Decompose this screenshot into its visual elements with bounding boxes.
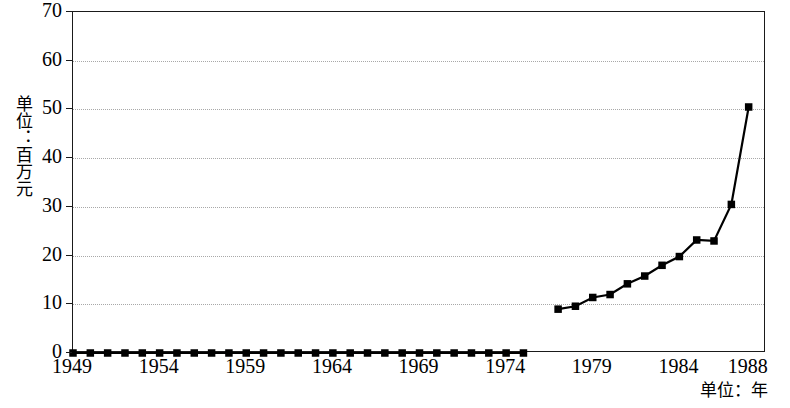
y-tick-label-60: 60 bbox=[26, 49, 62, 69]
data-point-marker bbox=[693, 236, 701, 244]
data-point-marker bbox=[381, 349, 389, 357]
x-tick-label-1954: 1954 bbox=[129, 355, 189, 377]
data-point-marker bbox=[606, 291, 614, 299]
x-axis-title: 单位：年 bbox=[700, 381, 768, 400]
x-tick-label-1974: 1974 bbox=[475, 355, 535, 377]
data-point-marker bbox=[294, 349, 302, 357]
x-tick-label-1949: 1949 bbox=[42, 355, 102, 377]
data-point-marker bbox=[208, 349, 216, 357]
series-line-rising-segment bbox=[558, 107, 749, 309]
data-point-marker bbox=[468, 349, 476, 357]
y-tick-mark-20 bbox=[66, 255, 72, 256]
x-tick-label-1969: 1969 bbox=[389, 355, 449, 377]
data-series-line bbox=[73, 12, 766, 353]
data-point-marker bbox=[104, 349, 112, 357]
data-point-marker bbox=[658, 262, 666, 270]
plot-area bbox=[72, 11, 765, 352]
data-point-marker bbox=[572, 302, 580, 310]
data-point-marker bbox=[364, 349, 372, 357]
x-tick-label-1959: 1959 bbox=[215, 355, 275, 377]
y-tick-label-40: 40 bbox=[26, 146, 62, 166]
y-tick-label-10: 10 bbox=[26, 292, 62, 312]
data-point-marker bbox=[589, 294, 597, 302]
data-point-marker bbox=[554, 305, 562, 313]
y-tick-label-20: 20 bbox=[26, 244, 62, 264]
y-tick-mark-0 bbox=[66, 352, 72, 353]
x-tick-label-1964: 1964 bbox=[302, 355, 362, 377]
chart-figure: 单位：百万元 010203040506070 19491954195919641… bbox=[0, 0, 790, 408]
y-tick-mark-10 bbox=[66, 303, 72, 304]
data-point-marker bbox=[641, 272, 649, 280]
data-point-marker bbox=[191, 349, 199, 357]
y-tick-label-30: 30 bbox=[26, 195, 62, 215]
x-tick-label-1988: 1988 bbox=[718, 355, 778, 377]
y-tick-mark-40 bbox=[66, 157, 72, 158]
data-point-marker bbox=[710, 237, 718, 245]
data-point-marker bbox=[121, 349, 129, 357]
data-point-marker bbox=[450, 349, 458, 357]
data-point-marker bbox=[624, 280, 632, 288]
y-tick-label-50: 50 bbox=[26, 97, 62, 117]
x-tick-label-1979: 1979 bbox=[562, 355, 622, 377]
data-point-marker bbox=[676, 253, 684, 260]
y-tick-mark-50 bbox=[66, 108, 72, 109]
x-tick-label-1984: 1984 bbox=[648, 355, 708, 377]
data-point-marker bbox=[277, 349, 285, 357]
data-point-marker bbox=[745, 103, 753, 111]
y-tick-mark-60 bbox=[66, 60, 72, 61]
y-tick-label-70: 70 bbox=[26, 0, 62, 20]
data-point-marker bbox=[728, 201, 736, 209]
y-tick-mark-70 bbox=[66, 11, 72, 12]
y-tick-mark-30 bbox=[66, 206, 72, 207]
